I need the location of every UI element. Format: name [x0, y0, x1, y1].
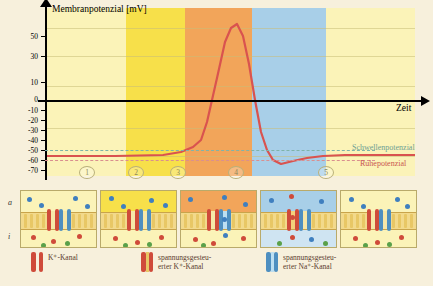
legend-item-voltage-gated-na-channel: spannungsgesteu- erter Na⁺-Kanal [265, 252, 336, 272]
y-axis-arrow-icon [40, 0, 52, 7]
potassium-ion [211, 241, 216, 246]
sodium-ion [85, 204, 90, 209]
y-tick [41, 140, 46, 141]
phase-marker-5: 5 [318, 166, 334, 179]
potassium-ion [113, 236, 118, 241]
sodium-ion [188, 197, 193, 202]
panel-axis-label-outside: a [8, 198, 12, 207]
sodium-ion [73, 196, 78, 201]
y-tick [41, 36, 46, 37]
sodium-ion [243, 202, 248, 207]
panel-5 [340, 190, 417, 248]
panel-axis-label-inside: i [8, 232, 10, 241]
k-channel-icon [30, 252, 44, 272]
sodium-ion [39, 203, 44, 208]
potassium-ion [290, 235, 295, 240]
potassium-ion [51, 239, 56, 244]
y-tick-label-m60: -60 [10, 156, 38, 165]
anion [123, 243, 128, 248]
y-tick-label-0: 0 [10, 95, 38, 104]
resting-potential-line [45, 160, 375, 161]
y-tick-label-m50: -50 [10, 146, 38, 155]
anion [387, 242, 392, 247]
phase-marker-3: 3 [170, 166, 186, 179]
panel-3 [180, 190, 257, 248]
potassium-ion [159, 235, 164, 240]
potassium-ion [135, 240, 140, 245]
legend-label-voltage-gated-k-channel: spannungsgesteu- erter K⁺-Kanal [158, 252, 211, 271]
legend-label-k-channel: K⁺-Kanal [48, 252, 78, 262]
sodium-ion [405, 204, 410, 209]
potassium-ion [193, 237, 198, 242]
phase-marker-4: 4 [228, 166, 244, 179]
y-tick-label-m20: -20 [10, 116, 38, 125]
sodium-ion [223, 233, 228, 238]
voltage-gated-na-channel-icon [299, 209, 311, 231]
voltage-gated-na-channel-icon [379, 209, 391, 231]
legend-label-voltage-gated-na-channel: spannungsgesteu- erter Na⁺-Kanal [283, 252, 336, 271]
x-axis [38, 100, 423, 102]
potassium-ion [31, 235, 36, 240]
sodium-ion [27, 197, 32, 202]
voltage-gated-k-channel-icon [140, 252, 154, 272]
sodium-ion [149, 198, 154, 203]
panel-2 [100, 190, 177, 248]
sodium-ion [361, 204, 366, 209]
anion [277, 241, 282, 246]
resting-potential-label: Ruhepotenzial [360, 159, 406, 168]
threshold-potential-line [45, 150, 375, 151]
panel-1 [20, 190, 97, 248]
potassium-ion [289, 194, 294, 199]
y-tick [41, 110, 46, 111]
k-channel-icon [367, 209, 379, 231]
y-tick-label-m40: -40 [10, 136, 38, 145]
y-tick [41, 170, 46, 171]
sodium-ion [222, 195, 227, 200]
panel-4 [260, 190, 337, 248]
threshold-potential-label: Schwellenpotenzial [352, 143, 415, 152]
sodium-ion [309, 237, 314, 242]
sodium-ion [349, 197, 354, 202]
anion [363, 243, 368, 248]
potassium-ion [77, 234, 82, 239]
y-axis [45, 4, 47, 180]
legend: K⁺-Kanal spannungsgesteu- erter K⁺-Kanal… [30, 252, 420, 280]
sodium-ion [109, 196, 114, 201]
phase-marker-2: 2 [128, 166, 144, 179]
sodium-ion [163, 203, 168, 208]
sodium-ion [222, 217, 227, 222]
chart-area: Membranpotenzial [mV] Zeit 50 30 10 0 -1… [0, 0, 433, 190]
y-tick [41, 56, 46, 57]
k-channel-icon [47, 209, 59, 231]
anion [323, 241, 328, 246]
y-tick [41, 130, 46, 131]
x-axis-arrow-icon [421, 96, 430, 106]
phase-marker-1: 1 [79, 166, 95, 179]
anion [201, 243, 206, 248]
sodium-ion [395, 197, 400, 202]
y-tick-label-50: 50 [10, 32, 38, 41]
anion [147, 242, 152, 247]
potassium-ion [375, 240, 380, 245]
k-channel-icon [127, 209, 139, 231]
voltage-gated-na-channel-icon [59, 209, 71, 231]
action-potential-figure: Membranpotenzial [mV] Zeit 50 30 10 0 -1… [0, 0, 433, 286]
sodium-ion [269, 198, 274, 203]
membrane-panel-row [20, 190, 420, 248]
y-tick-label-10: 10 [10, 78, 38, 87]
y-tick-label-m10: -10 [10, 106, 38, 115]
x-axis-title: Zeit [396, 103, 411, 113]
y-tick-label-m70: -70 [10, 166, 38, 175]
potassium-ion [241, 236, 246, 241]
sodium-ion [319, 199, 324, 204]
potassium-ion [290, 215, 295, 220]
legend-item-k-channel: K⁺-Kanal [30, 252, 78, 272]
y-tick [41, 82, 46, 83]
voltage-gated-na-channel-icon [265, 252, 279, 272]
legend-item-voltage-gated-k-channel: spannungsgesteu- erter K⁺-Kanal [140, 252, 211, 272]
sodium-ion [121, 204, 126, 209]
anion [41, 243, 46, 248]
voltage-gated-na-channel-icon [139, 209, 151, 231]
y-tick-label-30: 30 [10, 52, 38, 61]
y-tick-label-m30: -30 [10, 126, 38, 135]
